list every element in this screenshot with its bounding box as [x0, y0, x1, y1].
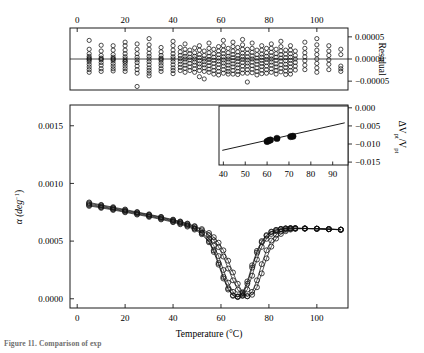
main-data-point [230, 278, 235, 283]
inset-y-axis-label: ΔVpt/Vpt [395, 121, 408, 154]
main-x-tick-label: 40 [169, 313, 179, 323]
main-data-point [274, 227, 279, 232]
main-data-point [245, 279, 250, 284]
inset-x-tick-label: 70 [284, 169, 294, 179]
inset-data-point [267, 137, 273, 143]
main-data-point [254, 278, 259, 283]
main-data-point [245, 287, 250, 292]
main-x-tick-label: 60 [216, 313, 226, 323]
main-y-tick-label: 0.0005 [38, 236, 63, 246]
main-data-point [199, 227, 204, 232]
main-y-tick-label: 0.0015 [38, 121, 63, 131]
main-data-point [254, 248, 259, 253]
v-sub: pt [395, 148, 402, 153]
inset-x-tick-label: 80 [306, 169, 316, 179]
alpha-close-paren: ) [14, 190, 25, 193]
main-data-point [216, 240, 221, 245]
svg-text:α (deg−1): α (deg−1) [13, 190, 26, 224]
inset-x-tick-label: 40 [219, 169, 229, 179]
main-data-point [87, 200, 92, 205]
main-data-point [254, 257, 259, 262]
main-data-point [221, 276, 226, 281]
main-data-point [259, 271, 264, 276]
main-data-point [192, 224, 197, 229]
main-data-point [235, 287, 240, 292]
main-data-point [269, 238, 274, 243]
delta-v-symbol: ΔV [397, 121, 407, 134]
inset-x-tick-label: 60 [263, 169, 273, 179]
inset-y-tick-label: −0.010 [355, 139, 381, 149]
main-data-point [230, 293, 235, 298]
residual-x-tick-label: 80 [264, 15, 274, 25]
residual-y-tick-label: 0.00005 [355, 32, 385, 42]
main-data-point [283, 229, 288, 234]
main-data-point [259, 239, 264, 244]
inset-y-tick-label: −0.005 [355, 121, 381, 131]
caption-text: Figure 11. Comparison of exp [4, 339, 101, 348]
main-data-point [259, 262, 264, 267]
figure-svg: 020406080100 0.000050.00000−0.00005 Resi… [0, 0, 424, 353]
main-data-point [314, 226, 319, 231]
inset-y-tick-label: 0.000 [355, 103, 376, 113]
main-data-point [171, 217, 176, 222]
main-data-point [278, 226, 283, 231]
inset-data-point [290, 133, 296, 139]
main-data-point [226, 258, 231, 263]
residual-x-tick-label: 20 [121, 15, 131, 25]
main-data-point [211, 235, 216, 240]
main-y-axis-label: α (deg−1) [13, 190, 26, 224]
main-y-tick-labels: 0.00000.00050.00100.0015 [38, 121, 63, 304]
main-data-point [288, 227, 293, 232]
main-data-point [230, 270, 235, 275]
residual-y-ticks [348, 37, 352, 81]
main-data-point [264, 248, 269, 253]
v-divider: /V [397, 139, 407, 149]
main-data-point [226, 287, 231, 292]
main-data-point [264, 256, 269, 261]
main-data-point [235, 281, 240, 286]
main-y-tick-label: 0.0000 [38, 294, 63, 304]
main-data-point [235, 294, 240, 299]
main-data-point [111, 205, 116, 210]
main-data-point [123, 207, 128, 212]
main-data-point [250, 292, 255, 297]
inset-data-point [274, 135, 280, 141]
inset-frame [219, 106, 348, 165]
main-data-point [221, 248, 226, 253]
main-data-point [226, 266, 231, 271]
main-data-point [302, 226, 307, 231]
main-data-point [211, 249, 216, 254]
main-data-point [326, 227, 331, 232]
main-data-point [338, 227, 343, 232]
alpha-exponent: −1 [13, 193, 20, 200]
main-x-tick-label: 100 [310, 313, 324, 323]
main-data-point [254, 285, 259, 290]
inset-y-tick-labels: 0.000−0.005−0.010−0.015 [355, 103, 381, 167]
figure-caption: Figure 11. Comparison of exp [4, 339, 101, 348]
inset-x-tick-label: 50 [241, 169, 251, 179]
main-data-point [185, 221, 190, 226]
main-data-point [259, 244, 264, 249]
main-data-point [250, 263, 255, 268]
main-data-point [216, 254, 221, 259]
main-x-axis-label: Temperature (°C) [176, 329, 243, 340]
residual-x-tick-labels: 020406080100 [75, 15, 324, 25]
main-data-point [99, 202, 104, 207]
main-data-point [245, 294, 250, 299]
residual-x-tick-label: 0 [75, 15, 80, 25]
main-x-tick-labels: 020406080100 [75, 313, 324, 323]
alpha-symbol: α (deg [14, 200, 25, 224]
main-data-point [178, 219, 183, 224]
main-data-point [147, 212, 152, 217]
main-x-tick-label: 0 [75, 313, 80, 323]
main-y-tick-label: 0.0010 [38, 179, 63, 189]
residual-x-tick-label: 100 [310, 15, 324, 25]
main-data-point [293, 226, 298, 231]
main-x-tick-label: 20 [121, 313, 131, 323]
residual-x-tick-label: 40 [169, 15, 179, 25]
main-data-point [278, 231, 283, 236]
main-x-tick-label: 80 [264, 313, 274, 323]
main-data-point [269, 229, 274, 234]
main-data-point [159, 214, 164, 219]
main-data-point [207, 240, 212, 245]
